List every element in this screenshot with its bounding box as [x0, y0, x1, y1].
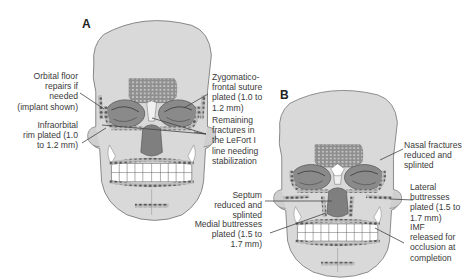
label-nasal-fractures: Nasal fractures reduced and splinted: [404, 140, 476, 171]
label-lateral-buttresses: Lateral buttresses plated (1.5 to 1.7 mm…: [410, 182, 476, 223]
label-medial-buttresses: Medial buttresses plated (1.5 to 1.7 mm): [172, 219, 262, 250]
label-orbital-floor: Orbital floor repairs if needed (implant…: [0, 71, 78, 112]
skull-b-illustration: [274, 90, 402, 277]
label-remaining-fractures: Remaining fractures in the LeFort I line…: [212, 115, 284, 166]
label-infraorbital-rim: Infraorbital rim plated (1.0 to 1.2 mm): [0, 120, 78, 151]
label-imf: IMF released for occlusion at completion: [410, 222, 476, 263]
label-zygomaticofrontal-suture: Zygomatico- frontal suture plated (1.0 t…: [212, 72, 284, 113]
panel-label-a: A: [82, 17, 91, 31]
label-septum: Septum reduced and splinted: [182, 190, 262, 221]
